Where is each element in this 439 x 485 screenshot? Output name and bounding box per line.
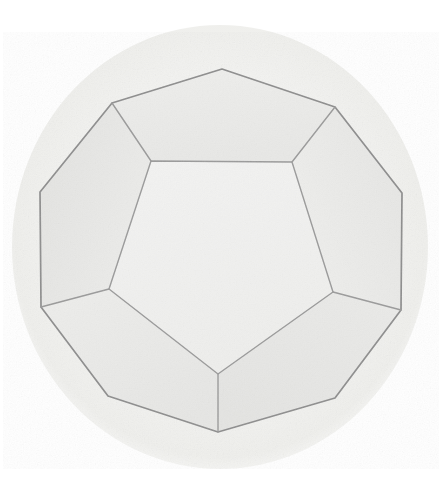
- drawing-canvas: [0, 0, 439, 485]
- dodecahedron-figure: [0, 0, 439, 485]
